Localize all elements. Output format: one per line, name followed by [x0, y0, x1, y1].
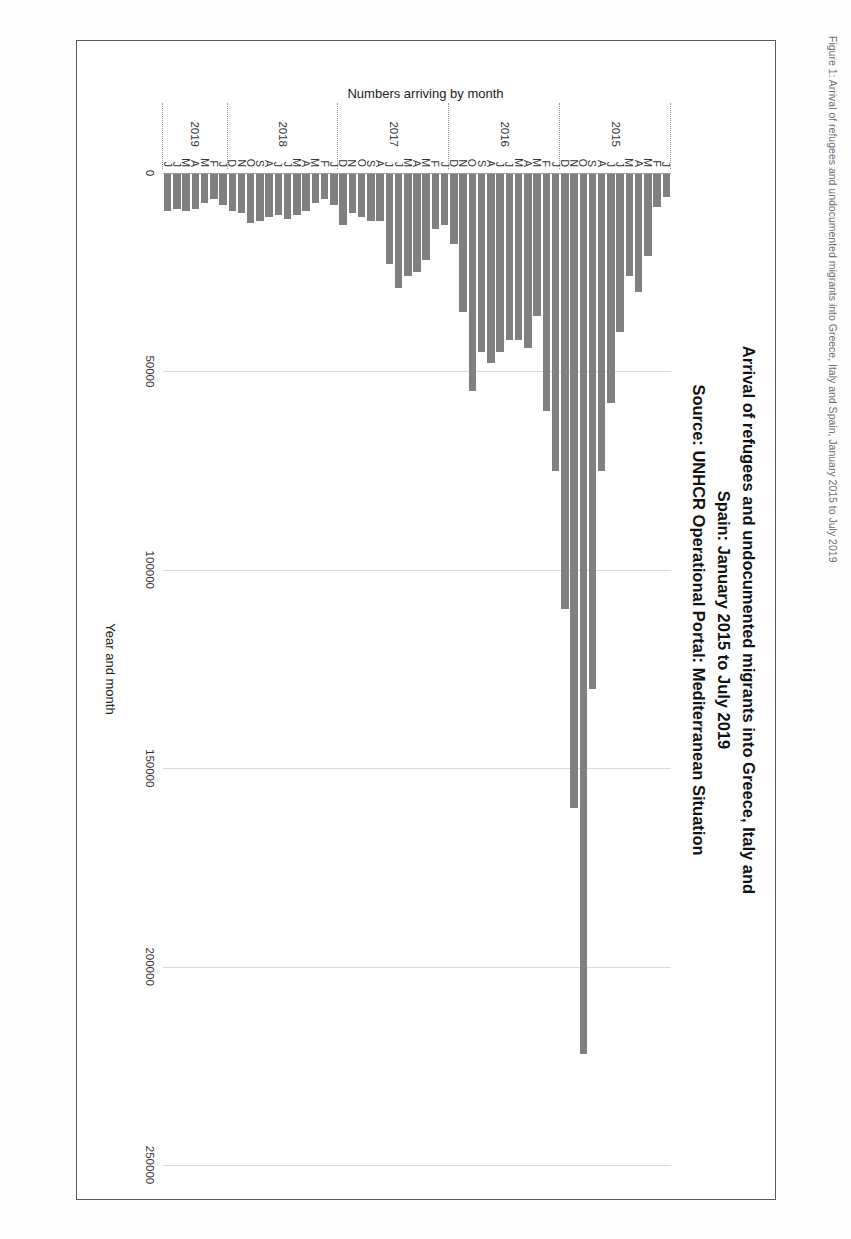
gridline [163, 966, 671, 967]
chart-title: Arrival of refugees and undocumented mig… [685, 41, 760, 1199]
gridline [163, 768, 671, 769]
y-axis-tick-label: 150000 [144, 749, 156, 787]
bar [634, 173, 642, 292]
y-axis-tick-label: 200000 [144, 947, 156, 985]
bar [579, 173, 587, 1054]
rotated-chart-wrapper: Arrival of refugees and undocumented mig… [0, 0, 851, 1239]
bar [311, 173, 319, 203]
bar [440, 173, 448, 225]
bar [561, 173, 569, 609]
bar [588, 173, 596, 689]
bar [644, 173, 652, 256]
bar [616, 173, 624, 332]
bar [533, 173, 541, 316]
bar [385, 173, 393, 264]
bar [487, 173, 495, 363]
bar [468, 173, 476, 391]
bar [283, 173, 291, 219]
bar [210, 173, 218, 199]
bar [514, 173, 522, 340]
bar [524, 173, 532, 348]
x-axis-year-label: 2016 [498, 121, 510, 147]
bar [237, 173, 245, 213]
plot-inner: 050000100000150000200000250000JFMAMJJASO… [163, 173, 671, 1165]
bar [597, 173, 605, 471]
bar [653, 173, 661, 207]
bar [173, 173, 181, 209]
bar [404, 173, 412, 276]
bar [394, 173, 402, 288]
figure-caption: Figure 1: Arrival of refugees and undocu… [819, 0, 849, 1239]
gridline [163, 1165, 671, 1166]
bar [450, 173, 458, 244]
bar [662, 173, 670, 197]
x-axis-year-label: 2015 [609, 121, 621, 147]
bar [607, 173, 615, 403]
bar [191, 173, 199, 209]
bar [219, 173, 227, 205]
bar [477, 173, 485, 352]
year-separator [448, 103, 449, 169]
bar [228, 173, 236, 211]
figure-caption-text: Figure 1: Arrival of refugees and undocu… [827, 36, 839, 562]
bar [367, 173, 375, 221]
plot-area: 050000100000150000200000250000JFMAMJJASO… [163, 173, 671, 1165]
year-separator [559, 103, 560, 169]
bar [274, 173, 282, 215]
x-axis-year-label: 2018 [277, 121, 289, 147]
value-axis-line [163, 173, 671, 174]
y-axis-tick-label: 0 [144, 169, 156, 175]
bar [182, 173, 190, 211]
bar [302, 173, 310, 211]
bar [413, 173, 421, 272]
title-line-3: Source: UNHCR Operational Portal: Medite… [685, 41, 710, 1199]
bar [163, 173, 171, 211]
year-separator [670, 103, 671, 169]
bar [570, 173, 578, 808]
year-separator [162, 103, 163, 169]
x-axis-year-label: 2019 [189, 121, 201, 147]
bar [459, 173, 467, 312]
bar [348, 173, 356, 213]
bar [256, 173, 264, 221]
bar [265, 173, 273, 217]
y-axis-title-text: Numbers arriving by month [347, 85, 503, 100]
bar [247, 173, 255, 223]
bar [431, 173, 439, 229]
chart-figure: Arrival of refugees and undocumented mig… [76, 40, 776, 1200]
y-axis-tick-label: 100000 [144, 550, 156, 588]
bar [376, 173, 384, 221]
year-separator [226, 103, 227, 169]
bar [200, 173, 208, 203]
bar [551, 173, 559, 471]
title-line-1: Arrival of refugees and undocumented mig… [735, 41, 760, 1199]
page-canvas: Arrival of refugees and undocumented mig… [0, 0, 851, 1239]
bar [496, 173, 504, 352]
bar [505, 173, 513, 340]
x-axis-year-label: 2017 [387, 121, 399, 147]
y-axis-tick-label: 50000 [144, 355, 156, 387]
x-axis-title: Year and month [103, 173, 118, 1165]
y-axis-tick-label: 250000 [144, 1145, 156, 1183]
bar [422, 173, 430, 260]
bar [320, 173, 328, 199]
bar [357, 173, 365, 217]
bar [542, 173, 550, 411]
bar [625, 173, 633, 276]
year-separator [337, 103, 338, 169]
bar [293, 173, 301, 215]
bar [330, 173, 338, 205]
bar [339, 173, 347, 225]
title-line-2: Spain: January 2015 to July 2019 [710, 41, 735, 1199]
